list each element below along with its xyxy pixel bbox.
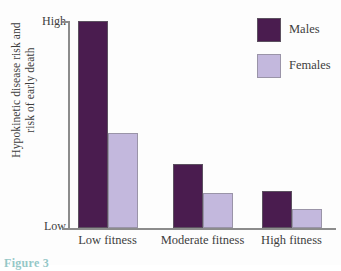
y-tick-label-high: High [22, 14, 66, 29]
legend-swatch-males [257, 18, 281, 42]
legend-item-males[interactable]: Males [257, 18, 341, 48]
y-tick-mark-low [62, 228, 69, 230]
figure-caption-fragment: Figure 3 [4, 256, 49, 271]
x-axis-line [68, 228, 336, 230]
bar-males-high-fitness [262, 191, 292, 228]
bar-females-moderate-fitness [203, 193, 233, 228]
bar-females-high-fitness [292, 209, 322, 228]
legend-label-males: Males [289, 22, 320, 37]
y-tick-label-low: Low [22, 219, 66, 234]
legend-item-females[interactable]: Females [257, 54, 341, 84]
bar-males-low-fitness [78, 21, 108, 228]
bar-females-low-fitness [108, 133, 138, 228]
legend: MalesFemales [257, 18, 341, 90]
legend-label-females: Females [289, 58, 331, 73]
bar-males-moderate-fitness [173, 164, 203, 228]
legend-swatch-females [257, 54, 281, 78]
x-axis-label-high-fitness: High fitness [232, 233, 341, 248]
y-tick-mark-high [62, 21, 69, 23]
